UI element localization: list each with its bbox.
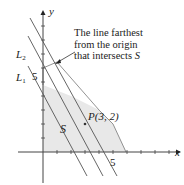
- label-l2: L2: [15, 48, 26, 62]
- y-tick-label-5: 5: [32, 70, 38, 82]
- x-axis-label: x: [174, 146, 180, 158]
- label-l1: L1: [15, 71, 26, 85]
- annotation-arrowhead-icon: [55, 59, 61, 64]
- annotation-line-1: The line farthest: [74, 27, 143, 39]
- region-label-s: S: [60, 122, 66, 136]
- x-tick-label-5: 5: [110, 156, 116, 168]
- y-axis-label: y: [48, 5, 54, 17]
- point-p: [84, 123, 87, 126]
- annotation-arrow: [58, 52, 75, 62]
- y-axis-arrow-icon: [41, 10, 46, 15]
- annotation-line-3: that intersects S: [74, 50, 143, 62]
- annotation-text: The line farthest from the origin that i…: [74, 27, 143, 62]
- annotation-line-2: from the origin: [74, 39, 143, 51]
- point-label-p: P(3, 2): [87, 110, 119, 123]
